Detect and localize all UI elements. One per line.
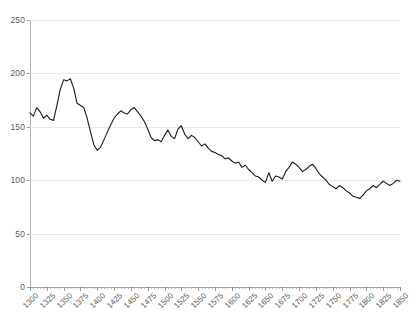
x-tick-label-1300: 1300 [21,291,40,310]
x-tick-minor-1535 [188,287,189,289]
plot-area [30,20,400,287]
x-tick-minor-1705 [302,287,303,289]
x-tick-minor-1810 [373,287,374,289]
x-tick-minor-1680 [286,287,287,289]
x-tick-minor-1670 [279,287,280,289]
y-tick-label-100: 100 [0,176,25,185]
x-tick-minor-1480 [151,287,152,289]
x-tick-major-1500 [165,287,166,291]
x-tick-major-1725 [316,287,317,291]
x-tick-minor-1640 [259,287,260,289]
x-tick-minor-1495 [161,287,162,289]
x-tick-minor-1745 [329,287,330,289]
x-tick-minor-1330 [50,287,51,289]
x-tick-major-1650 [265,287,266,291]
y-tick-mark-50 [27,234,30,235]
x-tick-minor-1540 [191,287,192,289]
x-tick-minor-1445 [128,287,129,289]
x-tick-minor-1760 [339,287,340,289]
y-tick-mark-100 [27,180,30,181]
x-tick-label-1450: 1450 [122,291,141,310]
x-tick-minor-1655 [269,287,270,289]
x-tick-label-1625: 1625 [240,291,259,310]
x-tick-label-1425: 1425 [105,291,124,310]
x-tick-minor-1740 [326,287,327,289]
x-tick-minor-1830 [387,287,388,289]
x-tick-major-1625 [249,287,250,291]
x-tick-minor-1615 [242,287,243,289]
x-tick-minor-1315 [40,287,41,289]
x-tick-minor-1305 [33,287,34,289]
x-tick-major-1350 [64,287,65,291]
x-tick-minor-1635 [255,287,256,289]
x-tick-label-1775: 1775 [341,291,360,310]
x-tick-label-1825: 1825 [374,291,393,310]
x-tick-minor-1785 [356,287,357,289]
x-tick-major-1825 [383,287,384,291]
y-tick-mark-250 [27,20,30,21]
x-tick-minor-1560 [205,287,206,289]
x-tick-minor-1360 [70,287,71,289]
x-tick-major-1400 [97,287,98,291]
x-tick-label-1575: 1575 [206,291,225,310]
x-tick-major-1525 [181,287,182,291]
x-tick-minor-1735 [323,287,324,289]
x-tick-minor-1715 [309,287,310,289]
x-tick-minor-1710 [306,287,307,289]
x-tick-minor-1510 [171,287,172,289]
x-tick-label-1350: 1350 [55,291,74,310]
gridline-y-50 [30,234,400,235]
x-tick-major-1600 [232,287,233,291]
x-tick-minor-1465 [141,287,142,289]
x-tick-minor-1435 [121,287,122,289]
x-tick-major-1550 [198,287,199,291]
x-tick-minor-1570 [212,287,213,289]
x-tick-minor-1310 [37,287,38,289]
x-tick-minor-1695 [296,287,297,289]
x-tick-minor-1765 [343,287,344,289]
x-tick-minor-1340 [57,287,58,289]
x-tick-minor-1415 [107,287,108,289]
x-tick-minor-1320 [43,287,44,289]
x-tick-minor-1805 [370,287,371,289]
x-tick-minor-1385 [87,287,88,289]
x-tick-minor-1370 [77,287,78,289]
x-tick-minor-1380 [84,287,85,289]
x-tick-label-1325: 1325 [38,291,57,310]
x-tick-minor-1565 [208,287,209,289]
x-tick-major-1325 [47,287,48,291]
y-tick-mark-150 [27,127,30,128]
x-tick-label-1700: 1700 [290,291,309,310]
chart-container: 050100150200250 130013251350137514001425… [0,0,419,321]
x-tick-minor-1790 [360,287,361,289]
x-tick-label-1675: 1675 [273,291,292,310]
x-tick-minor-1685 [289,287,290,289]
x-tick-major-1775 [350,287,351,291]
x-tick-minor-1355 [67,287,68,289]
x-tick-minor-1555 [202,287,203,289]
x-tick-minor-1515 [175,287,176,289]
x-tick-minor-1770 [346,287,347,289]
x-tick-minor-1590 [225,287,226,289]
x-tick-minor-1470 [144,287,145,289]
y-tick-label-250: 250 [0,16,25,25]
x-tick-major-1300 [30,287,31,291]
x-tick-minor-1485 [154,287,155,289]
x-tick-minor-1595 [228,287,229,289]
x-tick-label-1525: 1525 [172,291,191,310]
x-tick-minor-1815 [376,287,377,289]
x-tick-major-1475 [148,287,149,291]
x-tick-minor-1610 [239,287,240,289]
x-tick-minor-1505 [168,287,169,289]
x-tick-minor-1840 [393,287,394,289]
x-tick-minor-1395 [94,287,95,289]
x-tick-major-1700 [299,287,300,291]
gridline-y-250 [30,20,400,21]
x-tick-minor-1620 [245,287,246,289]
gridline-y-100 [30,180,400,181]
gridline-y-200 [30,73,400,74]
y-tick-label-150: 150 [0,123,25,132]
x-tick-minor-1645 [262,287,263,289]
x-tick-minor-1730 [319,287,320,289]
gridline-y-150 [30,127,400,128]
